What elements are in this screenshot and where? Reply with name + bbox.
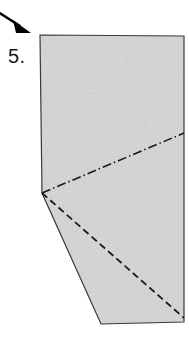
paper-texture-overlay <box>40 35 185 325</box>
step-number-label: 5. <box>8 44 26 68</box>
origami-step-figure: 5. <box>0 0 189 337</box>
direction-arrow-head <box>13 20 31 33</box>
figure-canvas <box>0 0 189 337</box>
direction-arrow <box>0 12 31 33</box>
